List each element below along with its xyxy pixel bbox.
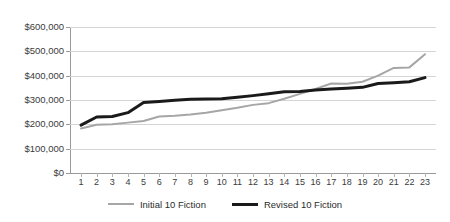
- chart-legend: Initial 10 FictionRevised 10 Fiction: [0, 196, 450, 212]
- x-tick-label: 22: [404, 177, 414, 188]
- x-tick-mark: [284, 173, 285, 177]
- legend-label: Revised 10 Fiction: [264, 199, 342, 210]
- x-tick-mark: [425, 173, 426, 177]
- legend-label: Initial 10 Fiction: [140, 199, 206, 210]
- x-tick-label: 11: [233, 177, 242, 188]
- x-tick-mark: [128, 173, 129, 177]
- plot-area: [70, 27, 436, 173]
- x-tick-mark: [97, 173, 98, 177]
- x-tick-mark: [316, 173, 317, 177]
- x-tick-mark: [394, 173, 395, 177]
- x-tick-label: 23: [420, 177, 430, 188]
- x-tick-label: 17: [326, 177, 336, 188]
- x-tick-label: 2: [94, 177, 99, 188]
- x-tick-mark: [253, 173, 254, 177]
- x-tick-mark: [347, 173, 348, 177]
- legend-entry[interactable]: Revised 10 Fiction: [232, 199, 342, 210]
- x-tick-label: 8: [188, 177, 193, 188]
- series-line: [81, 54, 425, 128]
- y-tick-label: $500,000: [0, 46, 64, 56]
- x-tick-mark: [191, 173, 192, 177]
- x-tick-label: 16: [310, 177, 320, 188]
- y-tick-label: $200,000: [0, 119, 64, 129]
- x-tick-label: 13: [264, 177, 274, 188]
- x-tick-mark: [159, 173, 160, 177]
- legend-swatch: [232, 203, 258, 206]
- x-tick-label: 6: [157, 177, 162, 188]
- x-tick-mark: [269, 173, 270, 177]
- x-tick-label: 5: [141, 177, 146, 188]
- x-tick-label: 7: [172, 177, 177, 188]
- x-tick-mark: [237, 173, 238, 177]
- x-tick-mark: [175, 173, 176, 177]
- line-chart: $0$100,000$200,000$300,000$400,000$500,0…: [0, 0, 450, 222]
- x-tick-mark: [206, 173, 207, 177]
- x-tick-label: 21: [389, 177, 399, 188]
- x-tick-label: 14: [279, 177, 289, 188]
- x-tick-mark: [144, 173, 145, 177]
- x-tick-mark: [81, 173, 82, 177]
- legend-swatch: [108, 203, 134, 205]
- y-tick-label: $400,000: [0, 71, 64, 81]
- x-tick-label: 1: [78, 177, 83, 188]
- x-tick-mark: [300, 173, 301, 177]
- x-tick-label: 10: [217, 177, 227, 188]
- y-axis-tick-labels: $0$100,000$200,000$300,000$400,000$500,0…: [0, 0, 64, 222]
- legend-entry[interactable]: Initial 10 Fiction: [108, 199, 206, 210]
- series-lines: [70, 27, 436, 173]
- series-line: [81, 78, 425, 125]
- y-tick-label: $300,000: [0, 95, 64, 105]
- x-tick-mark: [409, 173, 410, 177]
- x-axis-tick-labels: 1234567891011121314151617181920212223: [70, 177, 436, 191]
- x-tick-mark: [378, 173, 379, 177]
- x-tick-label: 18: [342, 177, 352, 188]
- x-tick-mark: [222, 173, 223, 177]
- x-tick-mark: [112, 173, 113, 177]
- x-tick-label: 4: [125, 177, 130, 188]
- x-tick-label: 15: [295, 177, 305, 188]
- x-tick-mark: [363, 173, 364, 177]
- x-tick-label: 12: [248, 177, 258, 188]
- x-tick-label: 9: [204, 177, 209, 188]
- x-tick-label: 19: [357, 177, 367, 188]
- x-tick-label: 20: [373, 177, 383, 188]
- y-tick-label: $100,000: [0, 144, 64, 154]
- y-tick-label: $0: [0, 168, 64, 178]
- x-tick-label: 3: [110, 177, 115, 188]
- y-tick-label: $600,000: [0, 22, 64, 32]
- x-tick-mark: [331, 173, 332, 177]
